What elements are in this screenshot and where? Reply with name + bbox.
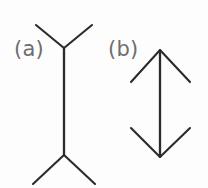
figure-canvas: (a) (b) — [0, 0, 208, 188]
panel-b-label: (b) — [108, 37, 138, 61]
figure-background — [0, 0, 208, 188]
muller-lyer-figure: (a) (b) — [0, 0, 208, 188]
panel-a-label: (a) — [14, 37, 44, 61]
